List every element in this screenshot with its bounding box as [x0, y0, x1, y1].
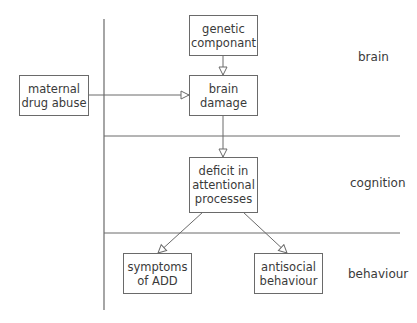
node-maternal-drug-abuse: maternal drug abuse	[19, 75, 89, 116]
node-label: genetic componant	[191, 22, 256, 50]
node-brain-damage: brain damage	[189, 75, 258, 116]
node-genetic-component: genetic componant	[189, 15, 258, 56]
node-deficit-attentional: deficit in attentional processes	[189, 157, 258, 213]
level-label-behaviour: behaviour	[348, 267, 408, 281]
node-label: antisocial behaviour	[260, 260, 318, 288]
node-label: symptoms of ADD	[127, 260, 187, 288]
node-symptoms-add: symptoms of ADD	[123, 253, 192, 294]
causal-diagram: genetic componant maternal drug abuse br…	[0, 0, 417, 323]
node-antisocial-behaviour: antisocial behaviour	[254, 253, 323, 294]
level-label-brain: brain	[358, 50, 389, 64]
node-label: brain damage	[200, 82, 247, 110]
node-label: maternal drug abuse	[22, 82, 87, 110]
node-label: deficit in attentional processes	[192, 164, 255, 206]
level-label-cognition: cognition	[350, 176, 405, 190]
